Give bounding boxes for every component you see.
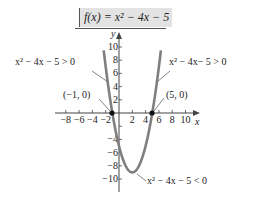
leader-neg [137,174,146,181]
root-point-right [149,110,154,115]
x-tick-label: −4 [87,114,98,125]
x-tick-label: 2 [130,114,135,125]
x-tick-label: 6 [156,114,161,125]
y-tick-label: 10 [108,41,118,52]
x-tick-label: 4 [143,114,148,125]
y-tick-label: 6 [113,67,118,78]
annotation-right-positive: x² − 4x− 5 > 0 [169,56,226,67]
y-axis-label: y [110,28,116,39]
x-axis-label: x [194,116,200,127]
x-tick-label: −2 [100,114,111,125]
y-tick-label: −6 [107,147,118,158]
y-tick-label: 8 [113,54,118,65]
parabola-plot: −8−6−4−2246810 −10−8−6−4246810 x y x² − … [0,0,253,200]
y-tick-label: 2 [113,94,118,105]
x-tick-label: 8 [170,114,175,125]
leader-pt-left [99,99,110,111]
y-tick-label: −8 [107,160,118,171]
y-tick-label: −10 [102,173,118,184]
point-label-left: (−1, 0) [63,89,90,101]
root-point-left [109,110,114,115]
y-tick-label: 4 [113,81,118,92]
annotation-left-positive: x² − 4x − 5 > 0 [15,56,75,67]
x-ticks: −8−6−4−2246810 [60,110,190,125]
x-tick-label: −8 [60,114,71,125]
x-tick-label: 10 [181,114,191,125]
x-tick-label: −6 [74,114,85,125]
annotation-negative: x² − 4x − 5 < 0 [147,175,207,186]
point-label-right: (5, 0) [166,89,188,101]
